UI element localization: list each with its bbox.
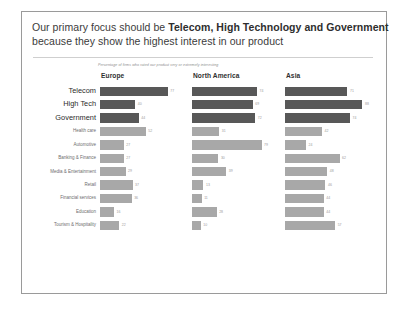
bar-value-label: 88 (365, 102, 369, 106)
panel-europe-row-financial-services: 36 (100, 194, 188, 203)
bar (192, 113, 255, 122)
chart-row: Retail371346 (22, 179, 388, 192)
bar-value-label: 77 (170, 89, 174, 93)
bar (285, 127, 322, 136)
bar-value-label: 22 (122, 223, 126, 227)
panel-asia-row-automotive: 24 (285, 140, 373, 149)
bar (192, 221, 201, 230)
bar (100, 100, 135, 109)
panel-europe-row-retail: 37 (100, 180, 188, 189)
bar-value-label: 36 (134, 196, 138, 200)
bar-value-label: 74 (353, 116, 357, 120)
bar (192, 207, 217, 216)
bar (100, 221, 119, 230)
panel-header-europe: Europe (101, 72, 124, 79)
bar-value-label: 44 (326, 196, 330, 200)
bar-value-label: 13 (206, 183, 210, 187)
bar-value-label: 52 (148, 129, 152, 133)
row-label-high-tech: High Tech (0, 99, 96, 108)
bar-value-label: 48 (330, 169, 334, 173)
chart-subtitle: Percentage of firms who rated our produc… (98, 63, 218, 68)
bar (100, 194, 132, 203)
row-label-financial-services: Financial services (0, 195, 96, 200)
panel-asia-row-telecom: 71 (285, 87, 373, 96)
bar-value-label: 44 (326, 210, 330, 214)
bar-value-label: 72 (258, 116, 262, 120)
chart: Europe North America Asia Telecom777471H… (22, 72, 388, 252)
bar (192, 140, 262, 149)
bar (285, 167, 327, 176)
bar (100, 140, 124, 149)
panel-europe-row-automotive: 27 (100, 140, 188, 149)
bar-value-label: 62 (342, 156, 346, 160)
bar-value-label: 29 (128, 169, 132, 173)
bar-value-label: 44 (141, 116, 145, 120)
row-label-education: Education (0, 209, 96, 214)
title-line-1: Our primary focus should be Telecom, Hig… (32, 21, 376, 35)
panel-asia-row-education: 44 (285, 207, 373, 216)
row-label-telecom: Telecom (0, 86, 96, 95)
panel-europe-row-high-tech: 40 (100, 100, 188, 109)
bar (192, 154, 218, 163)
bar (192, 167, 226, 176)
row-label-automotive: Automotive (0, 142, 96, 147)
panel-asia-row-health-care: 42 (285, 127, 373, 136)
bar (100, 113, 139, 122)
bar-value-label: 30 (221, 156, 225, 160)
bar (100, 180, 133, 189)
bar-value-label: 40 (138, 102, 142, 106)
bar-value-label: 46 (328, 183, 332, 187)
bar (192, 100, 253, 109)
bar (285, 140, 306, 149)
panel-europe-row-government: 44 (100, 113, 188, 122)
bar-value-label: 39 (229, 169, 233, 173)
panel-north-america-row-financial-services: 11 (192, 194, 280, 203)
panel-header-asia: Asia (286, 72, 300, 79)
bar-value-label: 74 (260, 89, 264, 93)
chart-row: Education162844 (22, 206, 388, 219)
panel-north-america-row-government: 72 (192, 113, 280, 122)
bar-value-label: 28 (219, 210, 223, 214)
chart-row: Media & Entertainment293948 (22, 165, 388, 178)
bar (192, 194, 202, 203)
bar (100, 207, 114, 216)
bar (100, 154, 124, 163)
bar (285, 100, 362, 109)
bar (100, 127, 146, 136)
panel-europe-row-tourism-hospitality: 22 (100, 221, 188, 230)
bar (100, 167, 126, 176)
row-label-government: Government (0, 113, 96, 122)
panel-asia-row-media-entertainment: 48 (285, 167, 373, 176)
bar (192, 87, 257, 96)
chart-row: Banking & Finance273062 (22, 152, 388, 165)
bar (100, 87, 168, 96)
bar-value-label: 31 (222, 129, 226, 133)
slide-title: Our primary focus should be Telecom, Hig… (32, 21, 376, 48)
panel-north-america-row-automotive: 79 (192, 140, 280, 149)
row-label-tourism-hospitality: Tourism & Hospitality (0, 222, 96, 227)
chart-row: High Tech406988 (22, 98, 388, 111)
chart-row: Tourism & Hospitality221057 (22, 219, 388, 232)
bar-value-label: 79 (264, 143, 268, 147)
bar-value-label: 27 (126, 156, 130, 160)
bar-value-label: 42 (324, 129, 328, 133)
chart-row: Health care523142 (22, 125, 388, 138)
panel-europe-row-health-care: 52 (100, 127, 188, 136)
row-label-banking-finance: Banking & Finance (0, 155, 96, 160)
title-line-2: because they show the highest interest i… (32, 35, 376, 49)
panel-north-america-row-media-entertainment: 39 (192, 167, 280, 176)
row-label-health-care: Health care (0, 128, 96, 133)
bar (285, 87, 347, 96)
chart-row: Financial services361144 (22, 192, 388, 205)
panel-asia-row-retail: 46 (285, 180, 373, 189)
bar-value-label: 24 (309, 143, 313, 147)
title-prefix: Our primary focus should be (32, 21, 168, 33)
panel-north-america-row-retail: 13 (192, 180, 280, 189)
bar (285, 113, 350, 122)
bar (285, 194, 324, 203)
bar (192, 127, 219, 136)
panel-north-america-row-health-care: 31 (192, 127, 280, 136)
bar-value-label: 71 (350, 89, 354, 93)
bar-value-label: 37 (135, 183, 139, 187)
panel-asia-row-banking-finance: 62 (285, 154, 373, 163)
